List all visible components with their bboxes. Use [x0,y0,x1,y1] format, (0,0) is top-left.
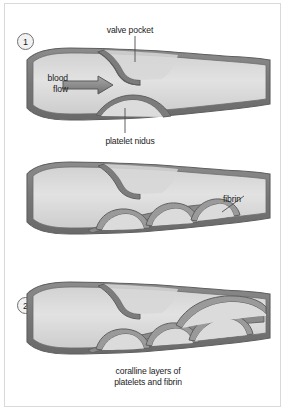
panel-two-illustration [0,140,286,265]
label-blood-flow: blood flow [18,73,68,94]
label-blood-flow-line1: blood [18,73,68,84]
thrombus-formation-figure: 1 [0,0,286,411]
label-blood-flow-line2: flow [18,84,68,95]
panel-one-illustration [0,0,286,140]
label-coralline-line1: coralline layers of [73,366,223,377]
label-coralline-line2: platelets and fibrin [73,377,223,388]
label-platelet-nidus: platelet nidus [60,136,200,147]
step-marker-1: 1 [17,33,34,50]
panel-three-illustration [0,262,286,411]
label-valve-pocket: valve pocket [70,25,190,36]
panel-three-coralline: 3 [0,262,286,411]
panel-one-valve-pocket: 1 [0,0,286,140]
panel-two-fibrin: 2 [0,140,286,265]
label-coralline-caption: coralline layers of platelets and fibrin [73,366,223,387]
label-fibrin: fibrin [223,194,241,205]
